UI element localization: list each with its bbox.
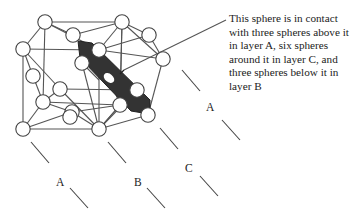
sphere: [53, 82, 67, 96]
sphere: [63, 110, 77, 124]
sphere: [66, 28, 80, 42]
sphere: [141, 108, 155, 122]
sphere: [130, 83, 144, 97]
plane-marker: [31, 142, 49, 163]
plane-marker: [160, 128, 178, 149]
sphere: [92, 122, 106, 136]
sphere: [142, 28, 156, 42]
plane-marker: [222, 120, 240, 140]
atom-spheres: [16, 15, 170, 136]
plane-marker: [147, 188, 165, 208]
layer-label: A: [206, 101, 214, 113]
sphere: [92, 43, 106, 57]
sphere: [36, 95, 50, 109]
layer-label: A: [56, 176, 64, 188]
plane-marker: [200, 176, 218, 196]
sphere: [16, 122, 30, 136]
sphere: [113, 98, 127, 112]
layer-label: C: [185, 162, 193, 174]
sphere: [115, 15, 129, 29]
plane-marker: [182, 70, 200, 91]
plane-marker: [70, 188, 88, 208]
sphere: [38, 15, 52, 29]
plane-marker: [108, 142, 126, 163]
sphere: [16, 42, 30, 56]
sphere: [156, 52, 170, 66]
sphere: [75, 56, 89, 70]
layer-label: B: [134, 176, 142, 188]
sphere: [26, 69, 40, 83]
annotation-caption: This sphere is in contact with three sph…: [229, 12, 357, 94]
